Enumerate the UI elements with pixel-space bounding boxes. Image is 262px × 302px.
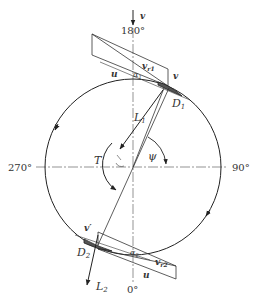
center-angle-mark [116, 155, 124, 167]
label-vr2: vr2 [155, 257, 168, 268]
label-v-upper: v [173, 71, 179, 81]
label-v-top: v [140, 11, 146, 21]
label-l2: L2 [95, 280, 108, 294]
label-psi: ψ [148, 150, 157, 163]
label-d1: D1 [171, 97, 185, 111]
rotation-arrow-right [206, 210, 210, 216]
angle-label-270: 270° [8, 162, 32, 173]
label-vr1: vr1 [142, 61, 155, 72]
angle-label-180: 180° [121, 25, 145, 36]
label-alpha1: α1 [133, 70, 142, 80]
label-u-lower: u [143, 270, 150, 280]
propeller-velocity-diagram: 180° 0° 270° 90° v v u vr1 α1 D1 L1 T ψ … [0, 0, 262, 302]
label-v-prime: v′ [84, 223, 92, 233]
angle-label-0: 0° [127, 284, 138, 295]
label-l1: L1 [133, 111, 146, 125]
label-u-upper: u [111, 69, 118, 79]
thrust-arc [102, 143, 116, 190]
angle-label-90: 90° [232, 162, 250, 173]
label-t: T [94, 154, 103, 167]
label-d2: D2 [76, 246, 91, 260]
